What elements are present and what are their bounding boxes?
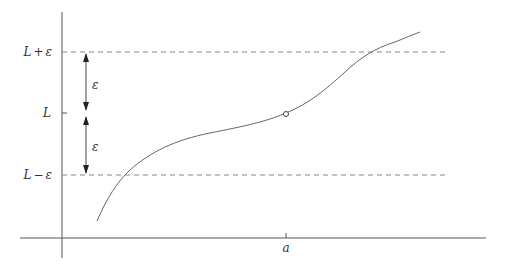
lower-eps-label: ε <box>92 140 98 154</box>
label-L-plus-eps: L+ε <box>23 45 52 59</box>
label-a: a <box>282 241 289 255</box>
label-L-minus-eps: L−ε <box>23 168 52 182</box>
function-curve <box>97 32 420 221</box>
label-L: L <box>42 106 51 120</box>
lower-epsilon-arrow <box>83 116 89 174</box>
upper-eps-label: ε <box>92 78 98 92</box>
hole-marker <box>284 112 289 117</box>
epsilon-limit-diagram: L+ε L L−ε ε ε a <box>0 0 511 268</box>
upper-epsilon-arrow <box>83 53 89 111</box>
